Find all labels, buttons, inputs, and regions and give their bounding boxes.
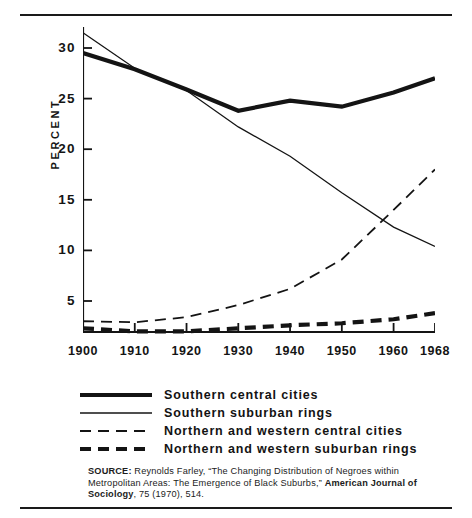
x-tick-label: 1940 (263, 344, 317, 358)
line-chart-svg (83, 27, 435, 338)
y-tick-label: 30 (42, 41, 76, 55)
x-tick-label: 1930 (211, 344, 265, 358)
source-citation: SOURCE: Reynolds Farley, “The Changing D… (88, 466, 428, 501)
legend-line-sample (80, 406, 152, 420)
x-tick-label: 1968 (408, 344, 462, 358)
y-tick-label: 10 (42, 243, 76, 257)
legend-item: Northern and western central cities (80, 422, 430, 440)
bottom-rule (20, 507, 452, 509)
legend-line-sample (80, 442, 152, 456)
legend-item: Southern central cities (80, 386, 430, 404)
plot-area (83, 27, 435, 338)
x-tick-label: 1950 (315, 344, 369, 358)
x-tick-label: 1900 (56, 344, 110, 358)
series-line (83, 53, 435, 111)
figure-page: PERCENT 51015202530 19001910192019301940… (0, 0, 472, 518)
series-line (83, 33, 435, 247)
x-tick-label: 1910 (108, 344, 162, 358)
source-text-part-2: , 75 (1970), 514. (134, 489, 204, 499)
series-line (83, 313, 435, 331)
y-tick-label: 5 (42, 294, 76, 308)
legend-label: Northern and western central cities (164, 424, 403, 438)
y-tick-label: 20 (42, 142, 76, 156)
series-line (83, 169, 435, 322)
x-tick-label: 1920 (160, 344, 214, 358)
x-axis-tick-labels: 19001910192019301940195019601968 (83, 344, 435, 364)
y-tick-label: 25 (42, 92, 76, 106)
top-rule (20, 14, 452, 16)
legend-label: Southern central cities (164, 388, 318, 402)
legend-line-sample (80, 388, 152, 402)
legend-label: Northern and western suburban rings (164, 442, 417, 456)
source-prefix: SOURCE: (88, 466, 132, 476)
y-tick-label: 15 (42, 193, 76, 207)
legend-label: Southern suburban rings (164, 406, 333, 420)
chart-legend: Southern central citiesSouthern suburban… (80, 386, 430, 458)
legend-item: Northern and western suburban rings (80, 440, 430, 458)
y-axis-tick-labels: 51015202530 (38, 27, 76, 338)
legend-line-sample (80, 424, 152, 438)
legend-item: Southern suburban rings (80, 404, 430, 422)
